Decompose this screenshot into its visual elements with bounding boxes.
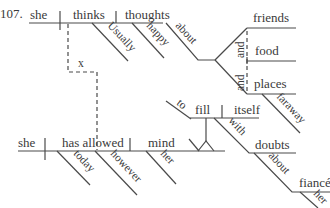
prep2-object: fiancé (299, 175, 330, 190)
happy-modifier: happy (144, 19, 173, 49)
infinitive-verb: fill (195, 102, 211, 117)
object-places: places (254, 76, 286, 91)
complement-tick (189, 139, 199, 151)
clause2-object: mind (148, 135, 175, 150)
conjunction-and-2: and (234, 74, 246, 91)
connector-label: x (78, 57, 84, 69)
sentence-diagram: 107. she thinks thoughts Usually happy a… (0, 0, 330, 208)
clause1-subject: she (30, 7, 48, 22)
about-preposition: about (174, 19, 201, 46)
infinitive-object: itself (234, 102, 261, 117)
clause1: she thinks thoughts Usually happy about … (29, 7, 309, 133)
clause2-verb: has allowed (62, 135, 124, 150)
connector-dashed-line (68, 24, 97, 150)
sentence-number: 107. (0, 6, 23, 21)
clause2: she has allowed mind today however her t… (18, 96, 330, 208)
faraway-modifier: faraway (274, 90, 309, 126)
conjunction-and-1: and (234, 41, 246, 58)
object-food: food (255, 43, 279, 58)
prep1-object: doubts (255, 137, 290, 152)
however-modifier: however (109, 147, 145, 184)
clause1-object: thoughts (125, 7, 170, 22)
pedestal-base (198, 141, 214, 151)
her-fiance-modifier: her (312, 187, 330, 206)
clause1-verb: thinks (73, 7, 105, 22)
clause2-subject: she (18, 135, 36, 150)
clause-connector: x (68, 24, 97, 150)
object-friends: friends (253, 10, 289, 25)
her-mind-modifier: her (159, 147, 178, 166)
